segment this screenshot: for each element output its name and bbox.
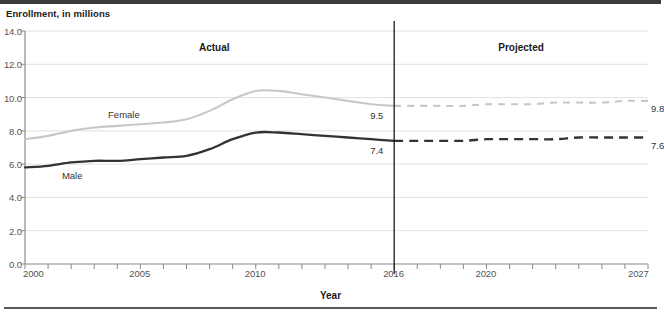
data-label-female-2016: 9.5 [370,110,383,121]
x-tick-label: 2027 [628,268,649,279]
period-label-actual: Actual [199,42,230,53]
data-label-male-2027: 7.6 [651,140,664,151]
y-tick-label: 0.0 [0,259,22,270]
y-tick-label: 10.0 [0,92,22,103]
x-tick-label: 2010 [245,268,266,279]
y-tick-label: 4.0 [0,192,22,203]
y-tick-label: 8.0 [0,125,22,136]
y-tick-label: 14.0 [0,26,22,37]
y-tick-label: 12.0 [0,59,22,70]
series-line-male-actual [25,132,394,168]
series-line-female-projected [394,101,648,106]
y-tick-label: 2.0 [0,225,22,236]
data-label-female-2027: 9.8 [651,103,664,114]
x-tick-label: 2005 [129,268,150,279]
x-tick-label: 2020 [475,268,496,279]
x-tick-label: 2016 [383,268,404,279]
x-axis-title: Year [0,290,661,301]
series-label-male: Male [62,170,83,181]
period-label-projected: Projected [498,42,544,53]
data-label-male-2016: 7.4 [370,145,383,156]
x-tick-label: 2000 [23,268,44,279]
y-tick-label: 6.0 [0,159,22,170]
series-line-male-projected [394,137,648,141]
series-label-female: Female [108,109,140,120]
